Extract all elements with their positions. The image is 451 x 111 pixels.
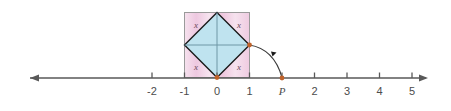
axis-label-four: 4 [376, 85, 382, 97]
axis-label-minus1: -1 [180, 85, 190, 97]
axis-right-arrow-icon [419, 75, 428, 82]
axis-label-two: 2 [311, 85, 317, 97]
vertex-dot-origin [215, 75, 220, 80]
axis-label-one: 1 [246, 85, 252, 97]
axis-label-three: 3 [344, 85, 350, 97]
vertex-dot-point-p [280, 76, 285, 81]
arc-arrowhead-icon [271, 52, 277, 57]
geometry-figure: x x x x -2 -1 0 1 P 2 3 4 5 [0, 0, 451, 111]
compass-arc [250, 45, 283, 78]
axis-label-five: 5 [409, 85, 415, 97]
corner-label-top-left: x [193, 20, 198, 30]
axis-label-point-p: P [278, 85, 286, 97]
axis-label-minus2: -2 [147, 85, 157, 97]
corner-label-top-right: x [236, 20, 241, 30]
corner-label-bottom-left: x [193, 62, 198, 72]
axis-left-arrow-icon [30, 75, 39, 82]
corner-label-bottom-right: x [236, 62, 241, 72]
axis-label-zero: 0 [214, 85, 220, 97]
vertex-dot-right [247, 43, 252, 48]
